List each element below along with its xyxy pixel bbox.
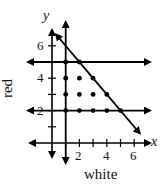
data-point xyxy=(77,76,82,81)
data-point xyxy=(77,60,82,65)
data-point xyxy=(63,76,68,81)
data-point xyxy=(104,108,109,113)
data-point xyxy=(91,76,96,81)
data-point xyxy=(77,108,82,113)
y-axis-label: red xyxy=(0,79,16,98)
data-point xyxy=(77,92,82,97)
y-tick-label-6: 6 xyxy=(37,38,44,54)
data-point xyxy=(63,108,68,113)
x-axis-label: white xyxy=(84,166,117,183)
data-point xyxy=(104,92,109,97)
x-axis-letter: x xyxy=(151,134,157,150)
y-axis-letter: y xyxy=(43,8,49,24)
data-point xyxy=(63,60,68,65)
x-tick-label-2: 2 xyxy=(75,148,82,164)
x-tick-label-6: 6 xyxy=(130,148,137,164)
data-point xyxy=(63,92,68,97)
axes xyxy=(30,30,150,157)
data-point xyxy=(91,92,96,97)
y-tick-label-2: 2 xyxy=(37,103,44,119)
x-tick-label-4: 4 xyxy=(103,148,110,164)
data-point xyxy=(118,108,123,113)
feasible-points xyxy=(63,60,123,113)
data-point xyxy=(91,108,96,113)
feasible-region-graph xyxy=(0,0,167,189)
axis-ticks xyxy=(48,46,134,147)
constraint-lines xyxy=(28,22,150,163)
y-tick-label-4: 4 xyxy=(37,70,44,86)
